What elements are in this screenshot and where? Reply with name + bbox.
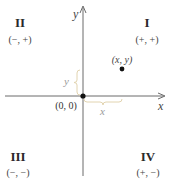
x-brace-label: x: [100, 106, 105, 117]
y-brace-label: y: [64, 76, 69, 87]
quadrant-iv-signs: (+, −): [137, 168, 160, 178]
quadrant-iii-signs: (−, −): [7, 168, 30, 178]
quadrant-iv-numeral: IV: [141, 150, 155, 163]
origin-label: (0, 0): [55, 101, 77, 111]
x-axis-label: x: [158, 100, 163, 112]
origin-point: [80, 93, 85, 98]
point-xy: [120, 67, 125, 72]
quadrant-ii-numeral: II: [15, 16, 25, 29]
y-brace: [74, 70, 80, 95]
coordinate-plane: y x II (−, +) I (+, +) (x, y) y x (0, 0)…: [0, 0, 174, 184]
quadrant-i-signs: (+, +): [136, 35, 159, 45]
quadrant-iii-numeral: III: [10, 150, 25, 163]
quadrant-i-numeral: I: [144, 16, 149, 29]
point-label: (x, y): [112, 55, 133, 65]
y-axis-label: y: [73, 8, 78, 20]
quadrant-ii-signs: (−, +): [9, 35, 32, 45]
